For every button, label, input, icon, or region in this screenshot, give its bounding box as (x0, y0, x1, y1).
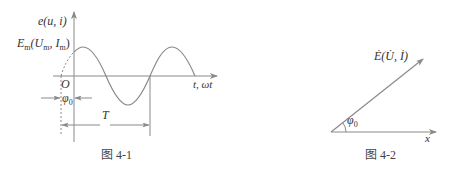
phasor-label: Ė(U̇, İ) (373, 49, 408, 63)
phasor-arrow (331, 59, 423, 132)
figure-4-2-caption: 图 4-2 (365, 148, 396, 162)
angle-arc (343, 123, 346, 132)
angle-label: φ0 (347, 113, 358, 129)
diagram-canvas: e(u, i) Em(Um, Im) O t, ωt φ0 T 图 4-1 Ė(… (0, 0, 449, 184)
amplitude-label: Em(Um, Im) (16, 36, 70, 52)
sine-wave-dashed-start (61, 52, 74, 76)
period-label: T (102, 108, 110, 122)
origin-label: O (61, 77, 70, 91)
x-axis-label: t, ωt (193, 78, 213, 90)
figure-4-2: Ė(U̇, İ) φ0 x 图 4-2 (331, 49, 436, 162)
figure-4-1: e(u, i) Em(Um, Im) O t, ωt φ0 T 图 4-1 (16, 12, 217, 162)
y-axis-label: e(u, i) (38, 14, 67, 28)
phase-label: φ0 (62, 91, 73, 107)
figure-4-1-caption: 图 4-1 (101, 148, 132, 162)
x-axis-label: x (424, 132, 430, 144)
